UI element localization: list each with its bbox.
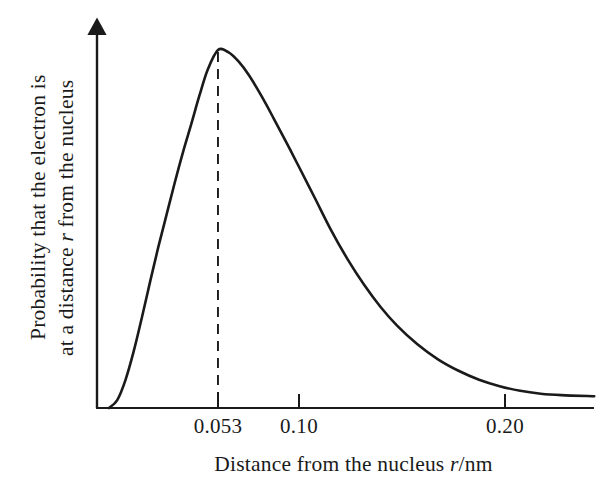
- x-axis-title-symbol: r: [450, 452, 459, 476]
- x-axis-title-prefix: Distance from the nucleus: [214, 452, 450, 476]
- radial-probability-figure: 0.053 0.10 0.20 Distance from the nucleu…: [0, 0, 615, 490]
- y-axis-title-symbol: r: [54, 233, 78, 242]
- x-axis-title: Distance from the nucleus r/nm: [0, 452, 615, 477]
- y-axis-title-line-2: at a distance r from the nucleus: [56, 80, 78, 356]
- x-tick-label-010: 0.10: [280, 414, 318, 439]
- y-axis-title-line-1: Probability that the electron is: [28, 74, 50, 340]
- x-axis-ticks: [218, 392, 505, 408]
- x-tick-label-0053: 0.053: [194, 414, 243, 439]
- y-axis-title-prefix: at a distance: [54, 242, 78, 356]
- probability-distribution-curve: [109, 49, 594, 408]
- x-tick-label-020: 0.20: [486, 414, 524, 439]
- x-axis-title-suffix: /nm: [459, 452, 493, 476]
- y-axis-title-suffix: from the nucleus: [54, 80, 78, 233]
